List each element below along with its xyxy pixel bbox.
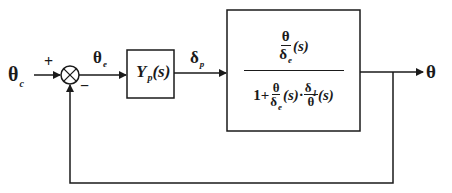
- term1-den: δe: [269, 95, 283, 109]
- main-fraction-bar: [244, 70, 344, 71]
- frac-den: δe: [278, 46, 293, 63]
- num-arg: (s): [293, 38, 309, 55]
- controller-arg: (s): [152, 62, 170, 81]
- delta-p-label: δp: [190, 49, 204, 66]
- summing-junction: [61, 66, 79, 84]
- theta-over-delta-e: θ δe: [278, 29, 293, 62]
- controller-subscript: p: [147, 72, 152, 83]
- term1-arg: (s): [283, 87, 299, 104]
- error-symbol: θ: [93, 48, 102, 67]
- plant-transfer-function: θ δe (s) 1+ θ δe (s) · δ1 θ (s): [227, 10, 360, 131]
- den-sub: e: [288, 55, 292, 65]
- plant-numerator: θ δe (s): [278, 25, 309, 67]
- frac-num: θ: [281, 29, 291, 46]
- den-symbol: δ: [279, 46, 287, 62]
- plus-sign: +: [44, 54, 53, 70]
- term1-fraction: θ δe: [269, 81, 283, 110]
- term2-arg: (s): [318, 87, 334, 104]
- diagram-lines: [0, 0, 452, 193]
- minus-sign: −: [80, 78, 89, 94]
- delta-p-subscript: p: [200, 59, 205, 69]
- error-subscript: e: [103, 59, 107, 69]
- term2-num-symbol: δ: [305, 80, 312, 95]
- controller-name: Y: [136, 62, 146, 81]
- term1-den-sub: e: [278, 102, 282, 112]
- output-label: θ: [426, 62, 436, 81]
- term2-num-sub: 1: [313, 88, 318, 98]
- term2-num: δ1: [304, 81, 318, 96]
- plant-denominator: 1+ θ δe (s) · δ1 θ (s): [253, 74, 334, 116]
- input-symbol: θ: [8, 63, 18, 85]
- term2-fraction: δ1 θ: [304, 81, 318, 110]
- term1-den-symbol: δ: [270, 94, 277, 109]
- one-plus: 1+: [253, 87, 269, 104]
- delta-p-symbol: δ: [190, 48, 199, 67]
- controller-label: Yp(s): [136, 63, 170, 80]
- input-subscript: c: [19, 78, 23, 89]
- input-label: θc: [8, 64, 24, 84]
- error-label: θe: [93, 49, 107, 66]
- term1-num: θ: [272, 81, 281, 96]
